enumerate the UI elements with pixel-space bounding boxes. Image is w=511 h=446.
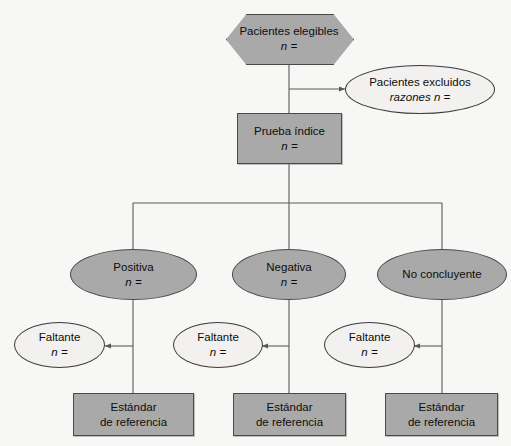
node-count: n = [125, 275, 141, 290]
node-count: n = [281, 275, 297, 290]
node-no-concluyente: No concluyente [377, 249, 507, 300]
node-label: Negativa [266, 260, 311, 275]
node-estandar-referencia-positiva: Estándar de referencia [73, 393, 194, 436]
node-pacientes-elegibles: Pacientes elegibles n = [226, 14, 352, 63]
node-label: Pacientes excluidos [369, 75, 471, 90]
node-label: Faltante [349, 330, 391, 345]
node-estandar-referencia-negativa: Estándar de referencia [233, 393, 346, 436]
node-label: Pacientes elegibles [239, 24, 338, 39]
node-label: Faltante [39, 330, 81, 345]
node-label-line1: Estándar [266, 400, 312, 415]
node-faltante-positiva: Faltante n = [14, 322, 105, 368]
node-label-line2: de referencia [408, 415, 475, 430]
node-count: n = [281, 139, 297, 154]
node-negativa: Negativa n = [232, 249, 346, 300]
node-count: n = [210, 345, 226, 360]
node-faltante-negativa: Faltante n = [173, 322, 263, 368]
node-label: No concluyente [402, 267, 481, 282]
node-faltante-no-concluyente: Faltante n = [324, 322, 415, 368]
node-positiva: Positiva n = [70, 249, 197, 300]
node-label: Prueba índice [254, 124, 325, 139]
flowchart-canvas: Pacientes elegibles n = Pacientes exclui… [0, 0, 511, 446]
node-label: Positiva [113, 260, 153, 275]
node-count: n = [281, 39, 297, 54]
node-label: Faltante [197, 330, 239, 345]
node-label-line2: de referencia [256, 415, 323, 430]
node-count: n = [361, 345, 377, 360]
node-count: razones n = [390, 90, 450, 105]
node-pacientes-excluidos: Pacientes excluidos razones n = [345, 65, 495, 114]
node-label-line1: Estándar [418, 400, 464, 415]
node-label-line1: Estándar [110, 400, 156, 415]
node-label-line2: de referencia [100, 415, 167, 430]
node-label-group: Pacientes elegibles n = [226, 14, 352, 63]
node-prueba-indice: Prueba índice n = [237, 113, 342, 164]
node-count: n = [51, 345, 67, 360]
node-estandar-referencia-no-concluyente: Estándar de referencia [385, 393, 498, 436]
